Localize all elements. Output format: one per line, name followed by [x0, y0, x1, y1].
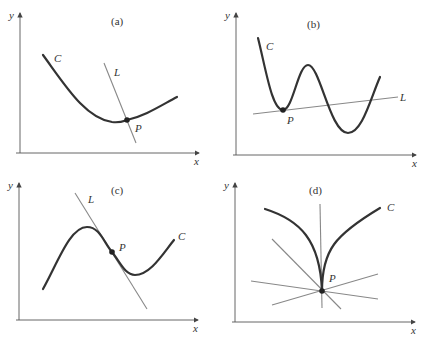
panel-title: (c): [111, 184, 124, 197]
panel-title: (a): [111, 15, 124, 28]
panel-c: y x (c) C L P: [7, 179, 198, 334]
panel-b: y x (b) C L P: [224, 9, 417, 169]
y-axis-label: y: [8, 9, 14, 21]
point-P: [280, 107, 286, 113]
x-axis-label: x: [193, 155, 199, 167]
point-label: P: [328, 272, 336, 284]
panel-title: (d): [309, 184, 322, 197]
point-label: P: [134, 122, 142, 134]
point-label: P: [118, 241, 126, 253]
curve-C: [43, 55, 177, 122]
panel-d: y x (d) C P: [223, 179, 416, 336]
figure-canvas: y x (a) C L P y x (b) C L P y x (c) C L …: [0, 0, 429, 342]
line-label: L: [399, 91, 406, 103]
curve-C: [258, 38, 380, 133]
curve-label: C: [54, 52, 62, 64]
line-label: L: [87, 193, 94, 205]
x-axis-label: x: [410, 324, 416, 336]
point-P: [124, 117, 130, 123]
y-axis-label: y: [224, 9, 230, 21]
point-P: [319, 288, 325, 294]
line-shallow-down: [251, 281, 378, 299]
curve-label: C: [266, 40, 274, 52]
panel-a: y x (a) C L P: [8, 9, 199, 167]
line-shallow-up: [272, 274, 378, 305]
panel-title: (b): [307, 18, 320, 31]
point-label: P: [286, 114, 294, 126]
y-axis-label: y: [7, 179, 13, 191]
x-axis-label: x: [411, 157, 417, 169]
curve-C: [43, 227, 174, 289]
curve-C-left: [265, 209, 322, 291]
curve-label: C: [178, 230, 186, 242]
point-P: [109, 249, 115, 255]
curve-label: C: [387, 201, 395, 213]
line-label: L: [113, 66, 120, 78]
y-axis-label: y: [223, 179, 229, 191]
x-axis-label: x: [192, 322, 198, 334]
